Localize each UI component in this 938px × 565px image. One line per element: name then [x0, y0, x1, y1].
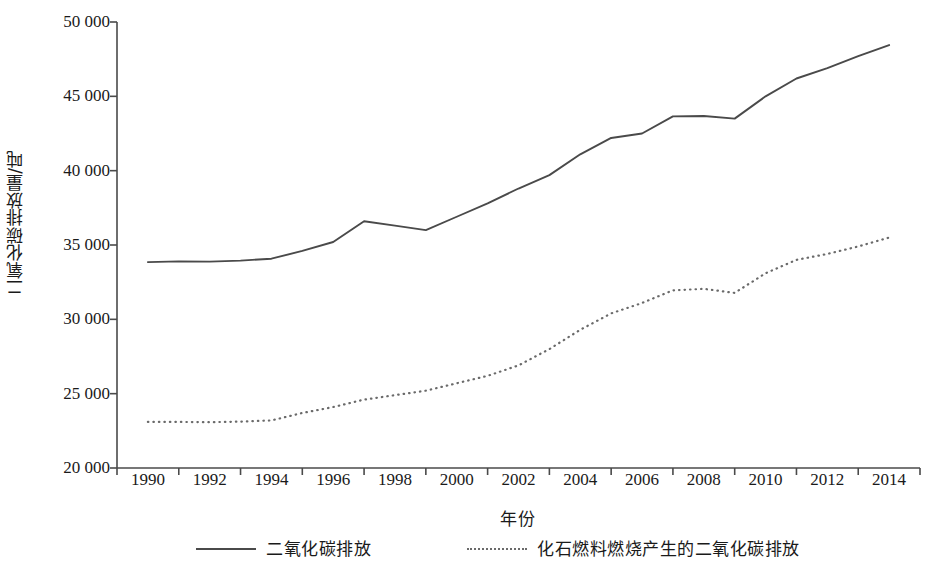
series-line-fossil-fuel-co2 [148, 238, 889, 423]
y-tick-label: 35 000 [28, 235, 110, 255]
x-tick-label: 2000 [440, 470, 474, 490]
y-tick-label: 20 000 [28, 458, 110, 478]
x-tick-label: 2004 [563, 470, 597, 490]
x-axis-title: 年份 [500, 505, 535, 530]
x-tick-label: 2008 [687, 470, 721, 490]
y-tick-label: 30 000 [28, 309, 110, 329]
x-tick-label: 1990 [131, 470, 165, 490]
x-tick-label: 1994 [254, 470, 288, 490]
chart-figure: 二氧化碳排放量/吨 50 00045 00040 00035 00030 000… [0, 0, 938, 565]
y-axis-title: 二氧化碳排放量/吨 [2, 150, 30, 296]
y-tick-label: 50 000 [28, 12, 110, 32]
legend-label-fossil-fuel-co2: 化石燃料燃烧产生的二氧化碳排放 [537, 535, 800, 560]
dotted-line-swatch-icon [467, 548, 527, 550]
series-line-co2-emissions [148, 45, 889, 262]
y-tick-label: 40 000 [28, 161, 110, 181]
x-tick-label: 2014 [872, 470, 906, 490]
x-tick-label: 2012 [810, 470, 844, 490]
x-tick-label: 1998 [378, 470, 412, 490]
x-tick-label: 2002 [502, 470, 536, 490]
tick-marks [110, 22, 920, 475]
y-tick-label: 25 000 [28, 384, 110, 404]
data-series [148, 45, 889, 422]
axis-lines [117, 22, 920, 468]
x-tick-label: 2006 [625, 470, 659, 490]
legend-label-co2-emissions: 二氧化碳排放 [266, 535, 371, 560]
chart-legend: 二氧化碳排放 化石燃料燃烧产生的二氧化碳排放 [0, 535, 938, 563]
y-tick-label: 45 000 [28, 86, 110, 106]
solid-line-swatch-icon [196, 548, 256, 550]
x-tick-label: 2010 [749, 470, 783, 490]
x-tick-label: 1996 [316, 470, 350, 490]
x-tick-label: 1992 [193, 470, 227, 490]
legend-item-co2-emissions: 二氧化碳排放 [196, 535, 371, 560]
legend-item-fossil-fuel-co2: 化石燃料燃烧产生的二氧化碳排放 [467, 535, 800, 560]
